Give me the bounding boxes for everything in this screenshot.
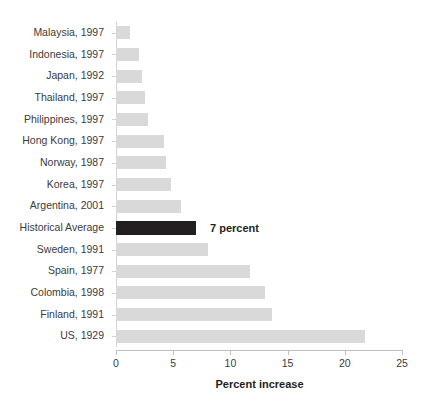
- bar: [116, 200, 181, 213]
- x-axis-tick-label: 25: [396, 357, 408, 369]
- x-axis-tick-label: 10: [225, 357, 237, 369]
- y-axis-tick: [112, 76, 116, 77]
- bar-chart: Malaysia, 1997Indonesia, 1997Japan, 1992…: [0, 0, 429, 415]
- x-axis-tick: [345, 350, 346, 355]
- category-label: Spain, 1977: [0, 260, 110, 282]
- bar-row: [116, 195, 402, 217]
- bar: [116, 70, 142, 83]
- y-axis-tick: [112, 54, 116, 55]
- x-axis-tick: [116, 350, 117, 355]
- x-axis-tick: [230, 350, 231, 355]
- bar: [116, 178, 171, 191]
- x-axis-tick-labels: 0510152025: [116, 357, 403, 373]
- y-axis-tick: [112, 228, 116, 229]
- bar: [116, 308, 272, 321]
- category-label: Thailand, 1997: [0, 87, 110, 109]
- category-label: Norway, 1987: [0, 152, 110, 174]
- bar-row: [116, 260, 402, 282]
- bar: [116, 48, 139, 61]
- category-label: Finland, 1991: [0, 304, 110, 326]
- bar-row: [116, 152, 402, 174]
- bar-row: [116, 44, 402, 66]
- bar-row: [116, 325, 402, 347]
- bar-row: [116, 22, 402, 44]
- y-axis-tick: [112, 163, 116, 164]
- category-label: Philippines, 1997: [0, 109, 110, 131]
- y-axis-tick: [112, 119, 116, 120]
- y-axis-tick: [112, 141, 116, 142]
- bar-row: [116, 65, 402, 87]
- bar-row: [116, 239, 402, 261]
- x-axis-tick: [288, 350, 289, 355]
- bar: [116, 113, 148, 126]
- y-axis-tick: [112, 185, 116, 186]
- y-axis-tick: [112, 315, 116, 316]
- bar: [116, 156, 166, 169]
- bar-highlighted: [116, 221, 196, 235]
- y-axis-tick: [112, 250, 116, 251]
- category-label: US, 1929: [0, 325, 110, 347]
- bar-row: [116, 87, 402, 109]
- category-label: Colombia, 1998: [0, 282, 110, 304]
- bar: [116, 330, 365, 343]
- bar: [116, 265, 250, 278]
- bar-value-label: 7 percent: [210, 222, 259, 234]
- y-axis-tick: [112, 33, 116, 34]
- y-axis-tick: [112, 206, 116, 207]
- category-label: Sweden, 1991: [0, 239, 110, 261]
- x-axis-tick-label: 15: [282, 357, 294, 369]
- bar-row: [116, 174, 402, 196]
- bar-row: [116, 130, 402, 152]
- y-axis-tick: [112, 336, 116, 337]
- x-axis-tick-label: 0: [113, 357, 119, 369]
- bar: [116, 135, 164, 148]
- x-axis-title: Percent increase: [116, 378, 403, 390]
- bar-row: [116, 304, 402, 326]
- bar-row: [116, 109, 402, 131]
- bar: [116, 243, 208, 256]
- category-label: Argentina, 2001: [0, 195, 110, 217]
- x-axis-tick: [402, 350, 403, 355]
- bar: [116, 91, 145, 104]
- x-axis-tick-label: 20: [339, 357, 351, 369]
- category-label: Japan, 1992: [0, 65, 110, 87]
- category-label: Korea, 1997: [0, 174, 110, 196]
- category-axis-labels: Malaysia, 1997Indonesia, 1997Japan, 1992…: [0, 22, 110, 347]
- x-axis-tick-label: 5: [170, 357, 176, 369]
- bar-row: [116, 282, 402, 304]
- plot-area: 7 percent: [116, 22, 402, 347]
- category-label: Hong Kong, 1997: [0, 130, 110, 152]
- bar-rows: 7 percent: [116, 22, 402, 347]
- y-axis-tick: [112, 271, 116, 272]
- bar: [116, 26, 130, 39]
- bar: [116, 286, 265, 299]
- category-label: Historical Average: [0, 217, 110, 239]
- bar-row: 7 percent: [116, 217, 402, 239]
- x-axis-tick: [173, 350, 174, 355]
- x-axis-ticks: [116, 350, 403, 356]
- category-label: Malaysia, 1997: [0, 22, 110, 44]
- y-axis-tick: [112, 293, 116, 294]
- category-label: Indonesia, 1997: [0, 44, 110, 66]
- y-axis-tick: [112, 98, 116, 99]
